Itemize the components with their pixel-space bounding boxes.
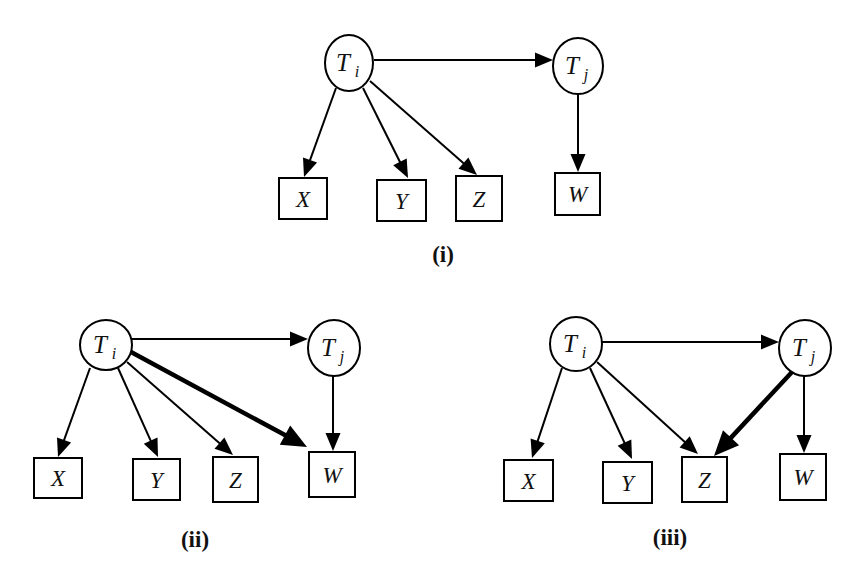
node-ti: Ti bbox=[550, 317, 602, 371]
node-ti: Ti bbox=[325, 35, 373, 91]
node-label: Z bbox=[698, 468, 711, 493]
edge-ti-to-w-thick bbox=[131, 352, 307, 447]
diagram-ii: TiTjXYZW(ii) bbox=[34, 320, 360, 552]
node-subscript: j bbox=[338, 348, 345, 366]
edge-tj-to-z-thick bbox=[714, 372, 792, 456]
node-label: W bbox=[793, 465, 814, 490]
arrowhead-icon bbox=[571, 154, 586, 172]
node-label: T bbox=[792, 334, 808, 361]
edge-ti-to-z bbox=[370, 81, 477, 175]
edge-line bbox=[730, 372, 792, 439]
node-label: T bbox=[565, 52, 581, 79]
node-label: X bbox=[295, 187, 311, 212]
edge-line bbox=[131, 352, 287, 436]
edge-ti-to-x bbox=[303, 88, 336, 177]
edge-line bbox=[363, 88, 401, 164]
node-subscript: i bbox=[355, 63, 359, 80]
node-label: Z bbox=[229, 468, 242, 493]
node-x: X bbox=[504, 460, 553, 501]
edge-ti-to-x bbox=[531, 368, 562, 458]
node-subscript: i bbox=[112, 345, 116, 362]
node-w: W bbox=[555, 173, 600, 215]
arrowhead-icon bbox=[57, 438, 71, 458]
edge-ti-to-y bbox=[363, 88, 408, 178]
diagram-caption: (ii) bbox=[181, 527, 209, 552]
diagram-caption: (iii) bbox=[653, 525, 688, 550]
node-tj: Tj bbox=[553, 38, 603, 94]
node-subscript: j bbox=[809, 348, 816, 366]
node-subscript: i bbox=[582, 344, 586, 361]
node-label: T bbox=[93, 331, 109, 358]
arrowhead-icon bbox=[761, 335, 779, 350]
node-y: Y bbox=[603, 462, 652, 503]
diagram-caption: (i) bbox=[432, 242, 454, 267]
node-label: Y bbox=[150, 468, 165, 493]
node-ti: Ti bbox=[80, 320, 132, 370]
edge-ti-to-tj bbox=[602, 335, 779, 350]
arrowhead-icon bbox=[797, 435, 812, 453]
node-label: W bbox=[568, 182, 589, 207]
arrowhead-icon bbox=[290, 332, 308, 347]
arrowhead-icon bbox=[531, 439, 545, 458]
edge-line bbox=[590, 368, 625, 444]
node-label: Y bbox=[621, 471, 636, 496]
diagram-i: TiTjXYZW(i) bbox=[279, 35, 603, 267]
edge-tj-to-w bbox=[571, 94, 586, 172]
arrowhead-icon bbox=[303, 158, 317, 178]
node-label: Y bbox=[395, 189, 410, 214]
node-w: W bbox=[780, 454, 826, 500]
edge-ti-to-tj bbox=[374, 53, 553, 68]
edge-ti-to-tj bbox=[132, 332, 308, 347]
edge-line bbox=[597, 362, 686, 443]
edge-line bbox=[370, 81, 465, 164]
node-label: X bbox=[520, 469, 536, 494]
node-tj: Tj bbox=[308, 320, 360, 376]
node-label: T bbox=[321, 334, 337, 361]
node-x: X bbox=[34, 458, 82, 498]
node-label: T bbox=[336, 49, 352, 76]
arrowhead-icon bbox=[326, 433, 341, 451]
edge-tj-to-w bbox=[326, 376, 341, 451]
edge-ti-to-z bbox=[597, 362, 698, 454]
node-label: X bbox=[50, 466, 66, 491]
edge-line bbox=[63, 368, 90, 442]
arrowhead-icon bbox=[535, 53, 553, 68]
edge-tj-to-w bbox=[797, 376, 812, 453]
edge-ti-to-y bbox=[118, 368, 158, 457]
node-label: W bbox=[322, 463, 343, 488]
node-y: Y bbox=[133, 459, 180, 500]
node-tj: Tj bbox=[779, 320, 831, 376]
node-z: Z bbox=[213, 457, 258, 502]
node-z: Z bbox=[456, 176, 502, 221]
edge-line bbox=[309, 88, 336, 162]
node-y: Y bbox=[377, 180, 426, 221]
node-label: Z bbox=[473, 187, 486, 212]
diagram-iii: TiTjXYZW(iii) bbox=[504, 317, 831, 550]
node-subscript: j bbox=[582, 66, 589, 84]
diagram-layer: TiTjXYZW(i)TiTjXYZW(ii)TiTjXYZW(iii) bbox=[34, 35, 831, 552]
edge-ti-to-y bbox=[590, 368, 632, 459]
node-x: X bbox=[279, 178, 327, 219]
node-label: T bbox=[563, 330, 579, 357]
diagram-canvas: TiTjXYZW(i)TiTjXYZW(ii)TiTjXYZW(iii) bbox=[0, 0, 865, 574]
edge-line bbox=[537, 368, 562, 443]
node-z: Z bbox=[682, 457, 727, 502]
edge-ti-to-x bbox=[57, 368, 90, 457]
node-w: W bbox=[309, 452, 355, 497]
